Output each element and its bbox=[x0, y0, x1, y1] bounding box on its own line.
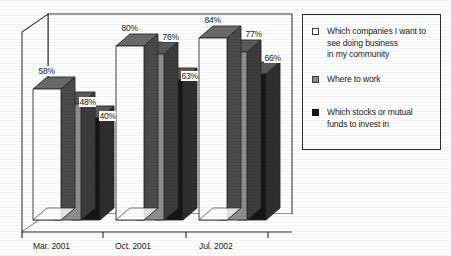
legend-item-label: Where to work bbox=[327, 74, 380, 86]
legend-item-label: Which stocks or mutual funds to invest i… bbox=[327, 107, 413, 130]
legend-item-where-to-work[interactable]: Where to work bbox=[312, 74, 380, 86]
bar-value-label: 66% bbox=[264, 53, 281, 63]
bar-value-label: 58% bbox=[38, 66, 55, 76]
bar-g0-companies bbox=[33, 77, 75, 220]
bar-value-label: 84% bbox=[204, 15, 221, 25]
bar-value-label: 40% bbox=[99, 111, 116, 121]
white-square-swatch-icon bbox=[312, 28, 319, 35]
chart-figure: 58% 48% 40% 80% 76% 63% 84% 77% 66% Mar.… bbox=[0, 0, 451, 256]
plot-area: 58% 48% 40% 80% 76% 63% 84% 77% 66% Mar.… bbox=[0, 0, 300, 256]
gray-square-swatch-icon bbox=[312, 76, 319, 83]
bar-g2-companies bbox=[199, 26, 241, 220]
x-axis-category-label-mar-2001: Mar. 2001 bbox=[33, 241, 70, 251]
bar-g1-companies bbox=[116, 34, 158, 220]
legend-item-label: Which companies I want to see doing busi… bbox=[327, 26, 426, 61]
bar-value-label: 80% bbox=[121, 23, 138, 33]
bar-value-label: 77% bbox=[245, 29, 262, 39]
x-axis-category-label-oct-2001: Oct. 2001 bbox=[115, 241, 151, 251]
x-axis-category-label-jul-2002: Jul. 2002 bbox=[199, 241, 233, 251]
legend-item-stocks[interactable]: Which stocks or mutual funds to invest i… bbox=[312, 107, 413, 130]
bar-value-label: 48% bbox=[79, 97, 96, 107]
legend-item-companies[interactable]: Which companies I want to see doing busi… bbox=[312, 26, 426, 61]
bar-value-label: 76% bbox=[162, 32, 179, 42]
chart-legend: Which companies I want to see doing busi… bbox=[302, 14, 441, 150]
bar-value-label: 63% bbox=[181, 71, 198, 81]
black-square-swatch-icon bbox=[312, 109, 319, 116]
